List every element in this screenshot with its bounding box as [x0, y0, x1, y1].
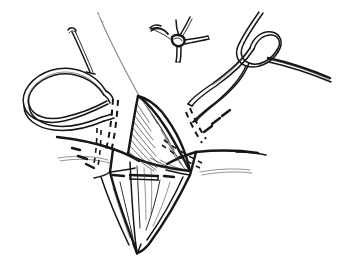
illustration-svg — [0, 0, 340, 270]
surgical-illustration-canvas — [0, 0, 340, 270]
